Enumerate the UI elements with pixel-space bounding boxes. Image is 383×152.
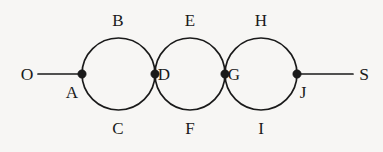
vertex-label-J: J — [300, 84, 307, 101]
edge-C-lower-arc — [82, 74, 155, 110]
terminal-label-S: S — [359, 66, 369, 84]
edge-label-B: B — [112, 12, 123, 29]
vertex-label-G: G — [228, 66, 240, 83]
edge-label-E: E — [185, 12, 195, 29]
vertex-label-D: D — [158, 66, 170, 83]
edge-label-H: H — [255, 12, 267, 29]
vertex-node-A — [78, 70, 86, 78]
vertex-label-A: A — [66, 84, 78, 101]
edge-B-upper-arc — [82, 38, 155, 74]
edge-label-C: C — [112, 120, 123, 137]
vertex-node-J — [293, 70, 301, 78]
terminal-label-O: O — [21, 66, 34, 84]
edge-label-I: I — [258, 120, 264, 137]
graph-diagram-canvas: O S A D G J B E H C F I — [0, 0, 383, 152]
edge-label-F: F — [185, 120, 194, 137]
